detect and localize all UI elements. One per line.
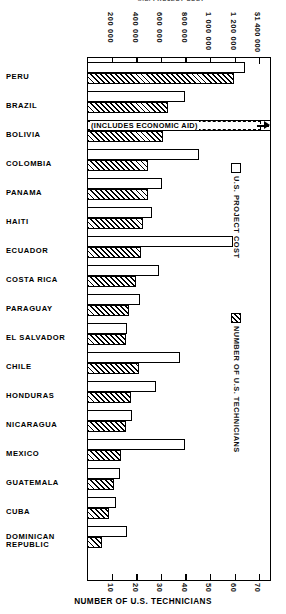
top-axis-tick-200000: 200 000 (106, 12, 115, 43)
bottom-axis-tick-20: 20 (131, 583, 140, 592)
bar-cost (87, 497, 116, 508)
chart-legend: U.S. PROJECT COSTNUMBER OF U.S. TECHNICI… (228, 0, 286, 614)
category-label: NICARAGUA (6, 421, 86, 430)
top-axis-tick-600000: 600 000 (155, 12, 164, 43)
bar-technicians (87, 276, 136, 287)
bar-technicians (87, 334, 126, 345)
category-labels: PERUBRAZILBOLIVIACOLOMBIAPANAMAHAITIECUA… (0, 0, 87, 614)
bar-technicians (87, 363, 139, 374)
bar-cost (87, 236, 233, 247)
bar-technicians (87, 247, 141, 258)
bar-cost (87, 265, 159, 276)
bar-cost (87, 178, 162, 189)
bar-cost (87, 468, 120, 479)
bar-cost (87, 294, 140, 305)
category-label: HONDURAS (6, 392, 86, 401)
bottom-axis-tick-40: 40 (180, 583, 189, 592)
bar-technicians (87, 450, 121, 461)
bar-cost (87, 526, 127, 537)
category-label: BRAZIL (6, 102, 86, 111)
category-label: GUATEMALA (6, 479, 86, 488)
category-label: CHILE (6, 363, 86, 372)
bar-technicians (87, 479, 114, 490)
legend-label-cost: U.S. PROJECT COST (232, 176, 241, 258)
bar-technicians (87, 160, 148, 171)
bar-technicians (87, 392, 131, 403)
category-label: MEXICO (6, 450, 86, 459)
bar-technicians (87, 508, 109, 519)
category-label: BOLIVIA (6, 131, 86, 140)
category-label: DOMINICAN REPUBLIC (6, 533, 86, 550)
bar-cost (87, 352, 180, 363)
bar-technicians (87, 189, 148, 200)
bar-cost (87, 381, 156, 392)
category-label: PARAGUAY (6, 305, 86, 314)
bottom-axis-tick-50: 50 (204, 583, 213, 592)
bar-technicians (87, 73, 234, 84)
bottom-axis-title: NUMBER OF U.S. TECHNICIANS (0, 597, 286, 606)
bar-technicians (87, 102, 168, 113)
bar-cost (87, 439, 185, 450)
bottom-axis-tick-10: 10 (106, 583, 115, 592)
category-label: PANAMA (6, 189, 86, 198)
category-label: COLOMBIA (6, 160, 86, 169)
category-label: COSTA RICA (6, 276, 86, 285)
top-axis-tick-400000: 400 000 (131, 12, 140, 43)
bar-technicians (87, 305, 129, 316)
bottom-axis-tick-70: 70 (253, 583, 262, 592)
legend-swatch-technicians (231, 313, 241, 323)
bar-cost (87, 62, 245, 73)
category-label: EL SALVADOR (6, 334, 86, 343)
bottom-axis-tick-60: 60 (229, 583, 238, 592)
category-label: CUBA (6, 508, 86, 517)
bottom-axis-tick-30: 30 (155, 583, 164, 592)
bar-cost (87, 91, 185, 102)
bar-technicians (87, 537, 102, 548)
bar-technicians (87, 421, 126, 432)
category-label: PERU (6, 73, 86, 82)
bar-cost (87, 323, 127, 334)
bar-technicians (87, 218, 143, 229)
bar-technicians (87, 131, 163, 142)
category-label: ECUADOR (6, 247, 86, 256)
legend-swatch-cost (231, 163, 241, 173)
top-axis-tick-1000000: 1 000 000 (204, 12, 213, 51)
bar-cost (87, 207, 152, 218)
bolivia-annotation-text: (INCLUDES ECONOMIC AID) (90, 121, 199, 130)
category-label: HAITI (6, 218, 86, 227)
bar-cost (87, 149, 199, 160)
legend-label-technicians: NUMBER OF U.S. TECHNICIANS (232, 326, 241, 453)
bar-cost (87, 410, 132, 421)
top-axis-tick-800000: 800 000 (180, 12, 189, 43)
